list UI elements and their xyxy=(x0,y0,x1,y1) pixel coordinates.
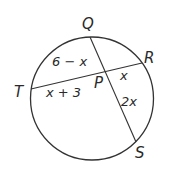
point-label-R: R xyxy=(144,49,154,67)
point-label-P: P xyxy=(94,74,104,92)
point-label-T: T xyxy=(14,83,25,101)
intersecting-chords-diagram: Q R T P S 6 − x x + 3 x 2x xyxy=(0,0,183,172)
point-label-Q: Q xyxy=(82,15,94,33)
segment-label-TP: x + 3 xyxy=(45,85,81,100)
segment-label-PS: 2x xyxy=(121,94,137,109)
point-label-S: S xyxy=(135,144,145,162)
segment-label-QP: 6 − x xyxy=(52,54,87,69)
segment-label-PR: x xyxy=(119,68,128,83)
